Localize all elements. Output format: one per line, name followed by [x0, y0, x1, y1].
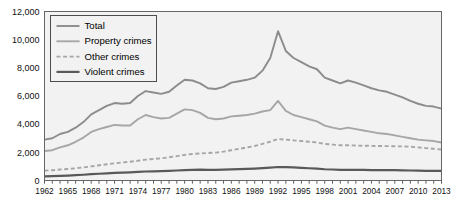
x-tick-label: 1995 [292, 186, 311, 196]
y-tick-label: 2,000 [17, 148, 40, 158]
x-tick-label: 2013 [432, 186, 451, 196]
x-tick-label: 1965 [59, 186, 78, 196]
y-tick-label: 10,000 [12, 35, 40, 45]
legend-label-other-crimes: Other crimes [85, 51, 140, 62]
x-tick-label: 1980 [175, 186, 194, 196]
x-tick-label: 1986 [222, 186, 241, 196]
crime-rate-line-chart: 02,0004,0006,0008,00010,00012,000 196219… [0, 0, 452, 211]
x-tick-label: 1989 [245, 186, 264, 196]
x-tick-label: 1977 [152, 186, 171, 196]
legend-label-property-crimes: Property crimes [85, 35, 152, 46]
x-tick-label: 1998 [316, 186, 335, 196]
x-tick-label: 1974 [129, 186, 148, 196]
x-tick-label: 1983 [199, 186, 218, 196]
x-tick-label: 1962 [35, 186, 54, 196]
x-tick-label: 2004 [362, 186, 381, 196]
x-tick-label: 1971 [105, 186, 124, 196]
y-tick-label: 8,000 [17, 63, 40, 73]
legend-label-violent-crimes: Violent crimes [85, 66, 145, 77]
x-tick-label: 1968 [82, 186, 101, 196]
x-tick-label: 2010 [409, 186, 428, 196]
y-tick-label: 0 [34, 176, 39, 186]
legend-label-total: Total [85, 20, 105, 31]
y-tick-label: 6,000 [17, 91, 40, 101]
x-tick-label: 2001 [339, 186, 358, 196]
chart-figure: 02,0004,0006,0008,00010,00012,000 196219… [0, 0, 452, 211]
x-tick-label: 2007 [386, 186, 405, 196]
x-tick-label: 1992 [269, 186, 288, 196]
y-tick-label: 4,000 [17, 119, 40, 129]
y-tick-label: 12,000 [12, 7, 40, 17]
chart-legend: TotalProperty crimesOther crimesViolent … [51, 16, 157, 82]
